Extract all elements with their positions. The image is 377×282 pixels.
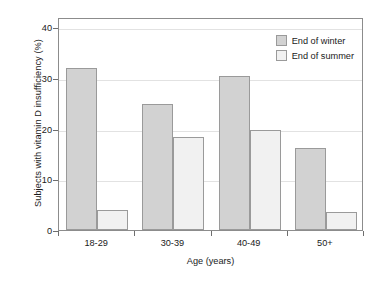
bar-winter <box>142 104 173 230</box>
x-axis-tick-labels: 18-2930-3940-4950+ <box>0 238 377 252</box>
x-tick-label: 18-29 <box>66 238 126 248</box>
bar-summer <box>250 130 281 230</box>
x-tick-mark <box>211 231 212 236</box>
x-tick-mark <box>134 231 135 236</box>
x-tick-mark <box>363 231 364 236</box>
x-tick-label: 50+ <box>295 238 355 248</box>
legend-label-summer: End of summer <box>292 51 354 61</box>
bar-summer <box>326 212 357 230</box>
bar-summer <box>97 210 128 230</box>
y-tick-label: 10 <box>32 175 52 185</box>
gridline <box>59 131 362 132</box>
legend-label-winter: End of winter <box>292 36 346 46</box>
bar-winter <box>66 68 97 230</box>
bar-winter <box>295 148 326 230</box>
legend-item-winter: End of winter <box>276 33 354 48</box>
gridline <box>59 80 362 81</box>
legend-swatch-icon-winter <box>276 35 287 46</box>
y-tick-label: 20 <box>32 125 52 135</box>
bar-summer <box>173 137 204 230</box>
x-tick-mark <box>58 231 59 236</box>
legend-item-summer: End of summer <box>276 48 354 63</box>
x-tick-label: 40-49 <box>219 238 279 248</box>
x-tick-label: 30-39 <box>142 238 202 248</box>
x-axis-title: Age (years) <box>58 256 363 266</box>
y-tick-label: 40 <box>32 23 52 33</box>
legend-swatch-icon-summer <box>276 50 287 61</box>
y-tick-label: 30 <box>32 74 52 84</box>
bar-winter <box>219 76 250 230</box>
chart-figure: Subjects with vitamin D insufficiency (%… <box>0 0 377 282</box>
legend: End of winter End of summer <box>272 31 358 66</box>
x-tick-mark <box>287 231 288 236</box>
gridline <box>59 29 362 30</box>
x-axis-tick-marks <box>0 231 377 237</box>
plot-area: End of winter End of summer <box>58 18 363 231</box>
